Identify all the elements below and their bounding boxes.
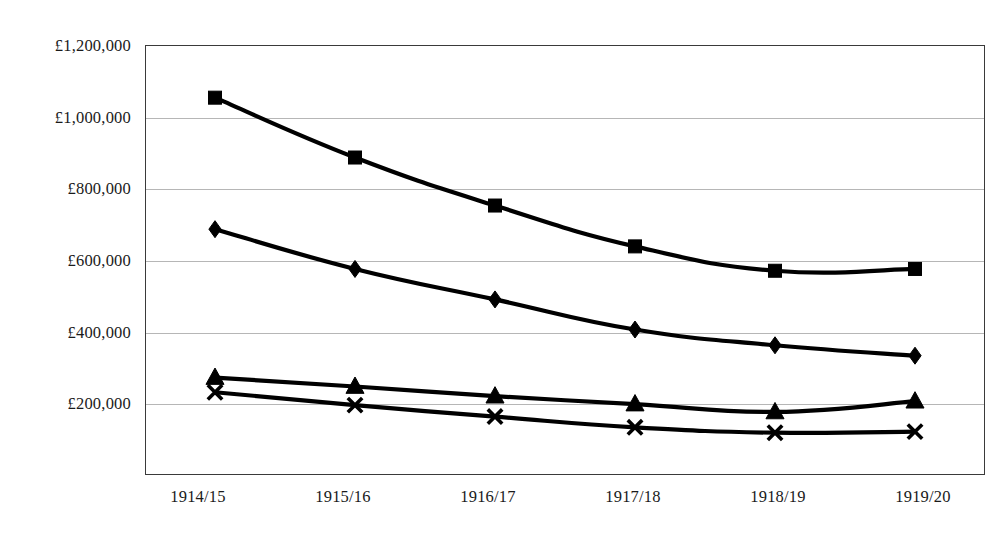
data-point-marker-s1-3: [489, 199, 502, 212]
line-chart: £1,200,000 £1,000,000 £800,000 £600,000 …: [0, 0, 1006, 545]
data-point-marker-s1-4: [629, 240, 642, 253]
series-line-2: [215, 229, 915, 355]
data-point-marker-s2-3: [489, 291, 501, 308]
data-point-marker-s1-1: [209, 91, 222, 104]
series-layer: [0, 0, 1006, 545]
data-point-marker-s2-4: [629, 321, 641, 338]
data-point-marker-s1-5: [769, 264, 782, 277]
data-point-marker-s2-5: [769, 337, 781, 354]
data-point-marker-s2-1: [209, 221, 221, 238]
series-group: [206, 91, 924, 440]
series-line-3: [215, 378, 915, 412]
data-point-marker-s2-2: [349, 260, 361, 277]
data-point-marker-s1-2: [349, 151, 362, 164]
data-point-marker-s2-6: [909, 347, 921, 364]
series-line-1: [215, 98, 915, 273]
data-point-marker-s1-6: [909, 262, 922, 275]
